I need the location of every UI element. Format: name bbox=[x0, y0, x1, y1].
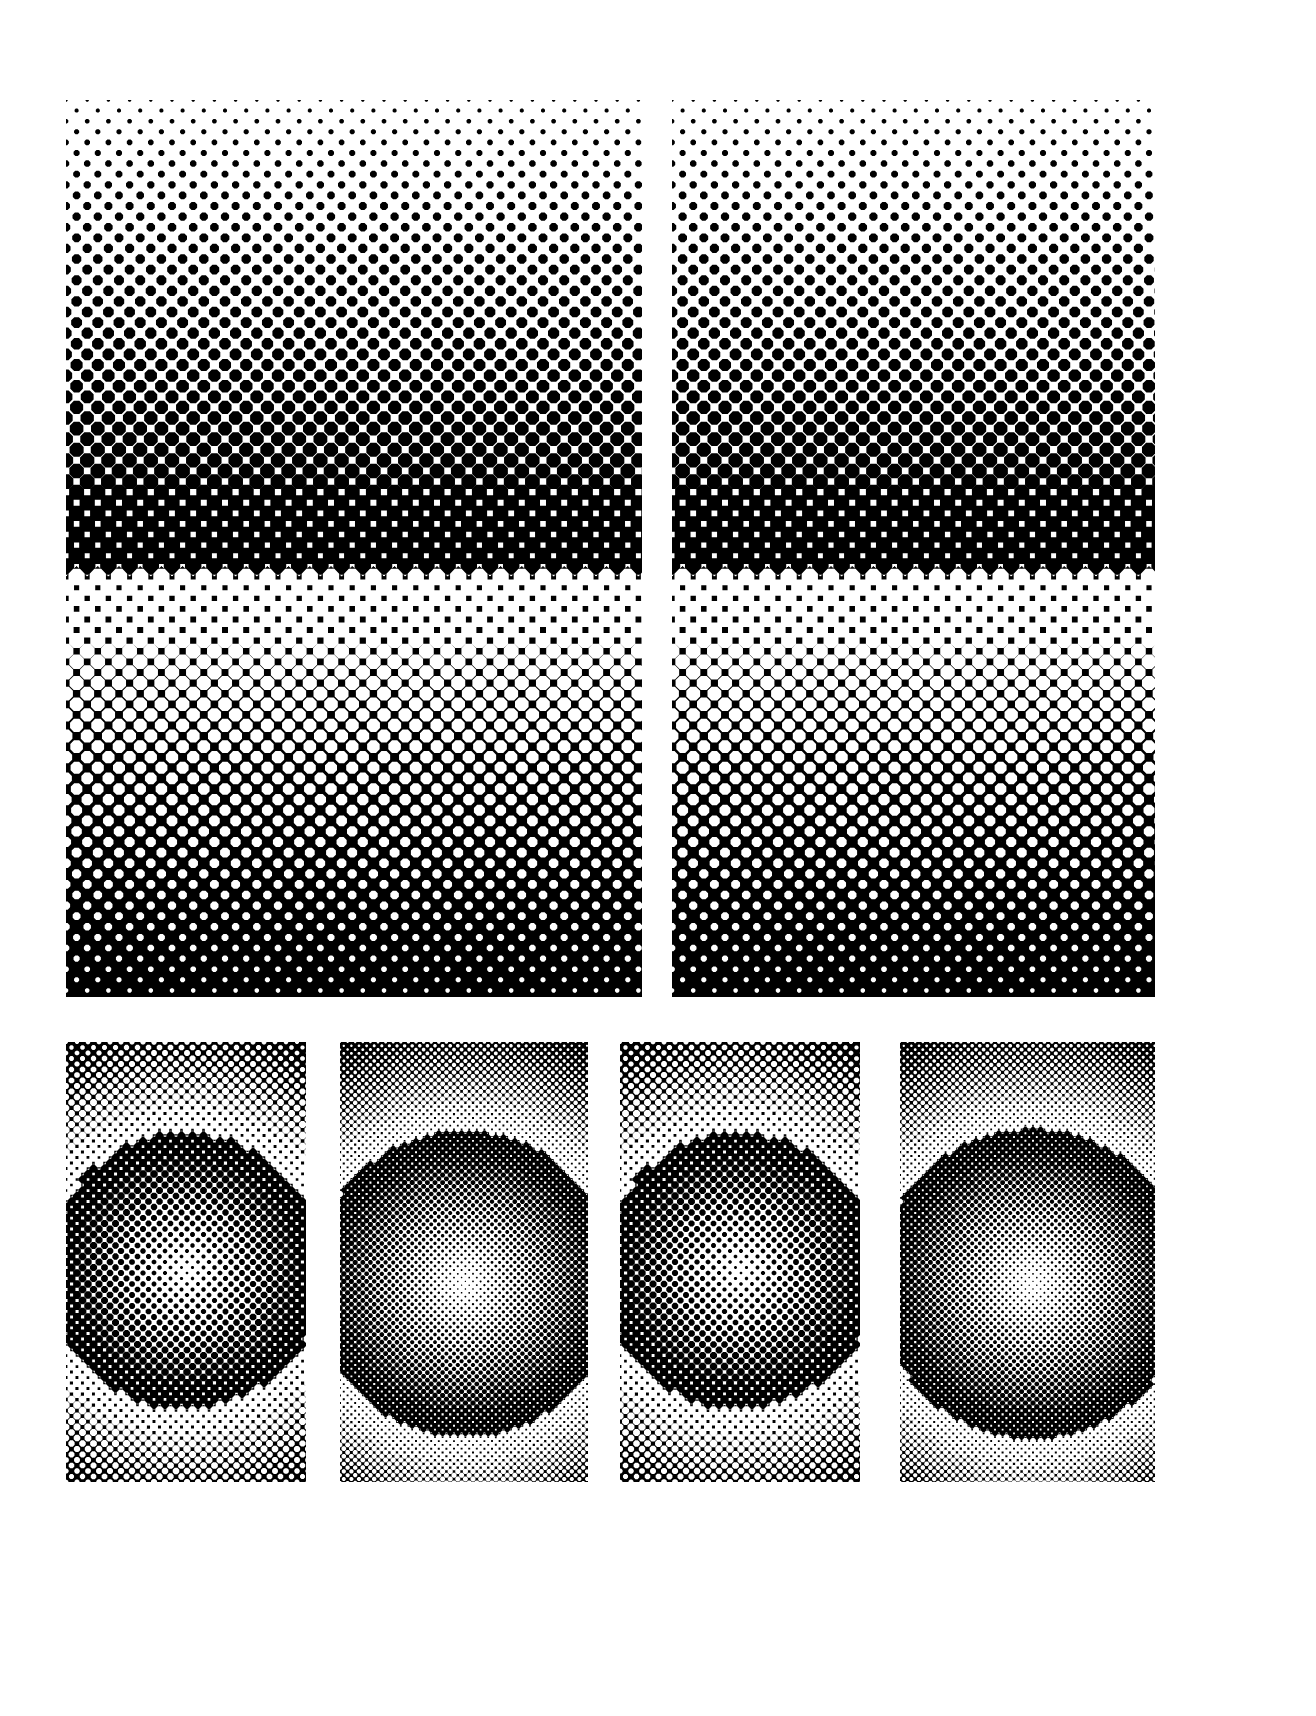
panel-bottom-2-screen bbox=[340, 1042, 588, 1482]
panel-bottom-3 bbox=[620, 1042, 860, 1482]
panel-top-right bbox=[672, 100, 1155, 997]
panel-top-right-screen bbox=[672, 100, 1155, 997]
panel-bottom-1-screen bbox=[66, 1042, 306, 1482]
halftone-plate: Halftone Gradient Plate bbox=[0, 0, 1316, 1716]
panel-bottom-1 bbox=[66, 1042, 306, 1482]
panel-top-left bbox=[66, 100, 642, 997]
panel-bottom-4-screen bbox=[900, 1042, 1155, 1482]
panel-bottom-3-screen bbox=[620, 1042, 860, 1482]
panel-top-right-solid-ink bbox=[672, 566, 1155, 997]
panel-bottom-4 bbox=[900, 1042, 1155, 1482]
panel-top-left-screen bbox=[66, 100, 642, 997]
panel-bottom-2 bbox=[340, 1042, 588, 1482]
